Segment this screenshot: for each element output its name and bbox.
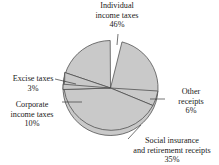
pie-label-line2: income taxes <box>74 11 160 21</box>
leader-line-individual-income-taxes <box>117 34 118 45</box>
pie-label-line1: Social insurance <box>124 136 219 146</box>
pie-label-corporate-income-taxes: Corporate income taxes 10% <box>0 100 64 129</box>
pie-label-value: 35% <box>124 155 219 165</box>
pie-slices <box>63 41 158 136</box>
pie-label-value: 10% <box>0 119 64 129</box>
pie-label-value: 6% <box>166 106 216 116</box>
pie-label-individual-income-taxes: Individual income taxes 46% <box>74 1 160 30</box>
pie-label-social-insurance-and-retirement-receipts: Social insurance and retirememt receipts… <box>124 136 219 165</box>
pie-label-line1: Individual <box>74 1 160 11</box>
pie-label-excise-taxes: Excise taxes 3% <box>2 74 64 93</box>
pie-label-other-receipts: Other receipts 6% <box>166 87 216 116</box>
pie-label-value: 3% <box>2 84 64 94</box>
pie-label-line2: income taxes <box>0 110 64 120</box>
pie-label-line2: receipts <box>166 97 216 107</box>
pie-label-line2: and retirememt receipts <box>124 146 219 156</box>
pie-label-line1: Other <box>166 87 216 97</box>
pie-label-line1: Corporate <box>0 100 64 110</box>
pie-label-value: 46% <box>74 20 160 30</box>
pie-chart-figure: Individual income taxes 46% Excise taxes… <box>0 0 219 165</box>
pie-label-line1: Excise taxes <box>2 74 64 84</box>
